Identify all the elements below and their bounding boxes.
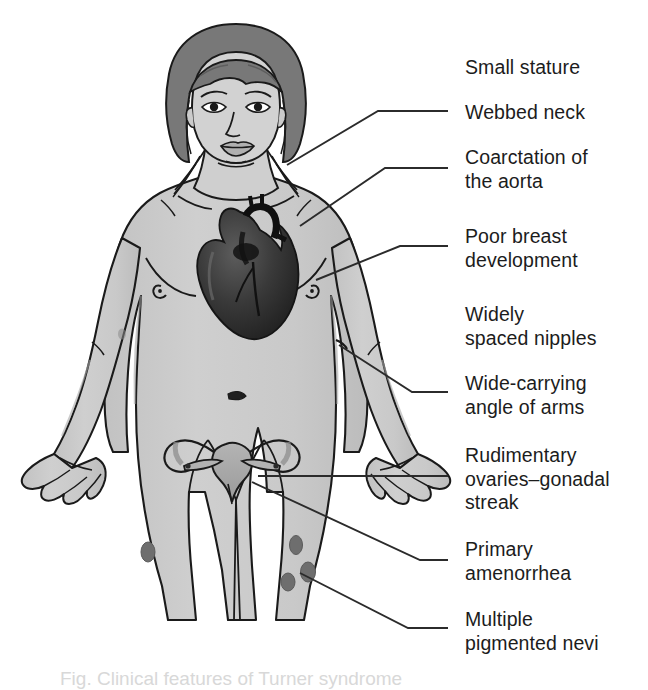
eye-right <box>246 103 270 113</box>
callout-small-stature[interactable]: Small stature <box>465 56 580 80</box>
nevus-4 <box>281 573 295 591</box>
hand-right <box>366 454 450 504</box>
figure-caption: Fig. Clinical features of Turner syndrom… <box>60 668 620 690</box>
callout-poor-breast-development[interactable]: Poor breast development <box>465 225 578 272</box>
leader-multiple-nevi <box>300 573 448 628</box>
callout-rudimentary-ovaries-gonadal-streak[interactable]: Rudimentary ovaries–gonadal streak <box>465 444 610 515</box>
nevus-5 <box>118 329 126 340</box>
leader-webbed-neck <box>287 111 448 165</box>
nevus-2 <box>290 536 303 555</box>
callout-widely-spaced-nipples[interactable]: Widely spaced nipples <box>465 303 597 350</box>
callout-wide-carrying-angle-of-arms[interactable]: Wide-carrying angle of arms <box>465 372 587 419</box>
hand-left <box>22 454 106 504</box>
callout-webbed-neck[interactable]: Webbed neck <box>465 101 585 125</box>
callout-multiple-pigmented-nevi[interactable]: Multiple pigmented nevi <box>465 608 599 655</box>
ventricle-shading <box>233 243 259 261</box>
callout-coarctation-of-the-aorta[interactable]: Coarctation of the aorta <box>465 146 588 193</box>
head-group <box>166 24 306 163</box>
nevus-1 <box>141 542 155 562</box>
callout-primary-amenorrhea[interactable]: Primary amenorrhea <box>465 538 571 585</box>
aorta-branch-1 <box>250 196 252 208</box>
eye-left <box>202 103 226 113</box>
